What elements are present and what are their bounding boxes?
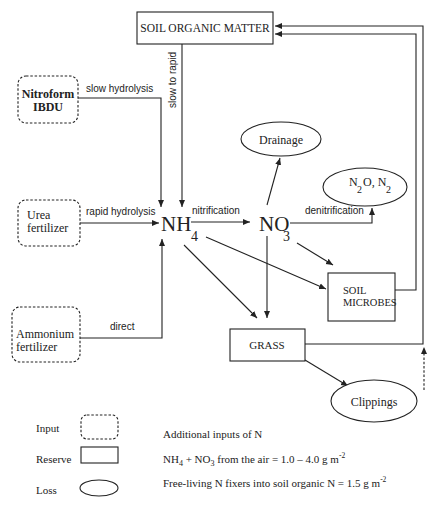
clippings-node: Clippings (331, 380, 417, 422)
nh4-to-grass-arrow (184, 245, 257, 318)
nitroform-to-nh4-arrow (78, 98, 161, 207)
legend-reserve-shape (81, 447, 118, 463)
no3-to-drainage-arrow (267, 158, 280, 205)
legend: Input Reserve Loss (36, 415, 118, 496)
legend-loss-shape (80, 480, 118, 496)
nh4-node: NH 4 (161, 212, 198, 244)
notes-air-input: NH4 + NO3 from the air = 1.0 – 4.0 g m-2 (163, 451, 345, 468)
nh4-subscript: 4 (191, 229, 198, 244)
ammonium-node: Ammonium fertilizer (12, 307, 80, 362)
direct-label: direct (110, 321, 135, 332)
urea-node: Urea fertilizer (18, 200, 80, 246)
n2o-n-subscript: 2 (357, 184, 362, 195)
denitrification-label: denitrification (305, 205, 364, 216)
grass-label: GRASS (249, 339, 284, 351)
legend-loss-label: Loss (36, 484, 57, 496)
urea-fertilizer-label: fertilizer (27, 221, 68, 235)
clippings-label: Clippings (351, 395, 398, 409)
legend-input-label: Input (36, 422, 59, 434)
grass-node: GRASS (230, 329, 305, 361)
microbes-to-som-arrow (275, 34, 416, 290)
nitroform-label: Nitroform (22, 87, 74, 101)
soil-organic-matter-node: SOIL ORGANIC MATTER (137, 12, 273, 44)
slow-hydrolysis-label: slow hydrolysis (86, 83, 153, 94)
no3-to-microbes-arrow (297, 243, 333, 265)
notes-title: Additional inputs of N (163, 428, 262, 440)
legend-input-shape (81, 415, 118, 439)
ibdu-label: IBDU (33, 100, 63, 114)
nh4-to-microbes-arrow (206, 237, 326, 289)
n2o-on-label: O, N (363, 175, 387, 189)
rapid-hydrolysis-label: rapid hydrolysis (86, 206, 155, 217)
drainage-node: Drainage (241, 122, 321, 156)
additional-inputs-notes: Additional inputs of N NH4 + NO3 from th… (163, 428, 387, 489)
ammonium-label: Ammonium (16, 327, 75, 341)
n2o-n2-node: N 2 O, N 2 (323, 168, 407, 206)
nitroform-node: Nitroform IBDU (18, 76, 78, 123)
nitrogen-cycle-diagram: SOIL ORGANIC MATTER Nitroform IBDU Urea … (0, 0, 446, 509)
urea-label: Urea (27, 208, 51, 222)
grass-to-clippings-arrow (305, 360, 348, 386)
slow-to-rapid-label: slow to rapid (167, 52, 178, 108)
nitrification-label: nitrification (192, 205, 240, 216)
soil-microbes-line1: SOIL (343, 285, 366, 296)
n2-subscript: 2 (386, 184, 391, 195)
soil-microbes-line2: MICROBES (343, 297, 397, 308)
soil-microbes-node: SOIL MICROBES (328, 273, 397, 321)
soil-organic-matter-label: SOIL ORGANIC MATTER (140, 22, 270, 34)
nh4-main-label: NH (161, 212, 191, 236)
drainage-label: Drainage (259, 133, 303, 147)
notes-fixers-input: Free-living N fixers into soil organic N… (163, 475, 387, 489)
ammonium-fertilizer-label: fertilizer (16, 340, 57, 354)
no3-node: NO 3 (259, 212, 290, 244)
legend-reserve-label: Reserve (36, 453, 72, 465)
no3-subscript: 3 (283, 229, 290, 244)
